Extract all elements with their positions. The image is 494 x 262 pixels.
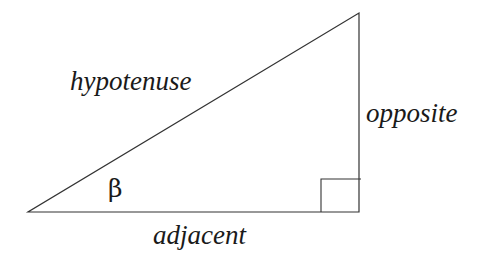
opposite-label: opposite — [366, 100, 458, 127]
angle-beta-label: β — [108, 176, 122, 201]
right-triangle — [28, 13, 359, 212]
right-angle-marker — [321, 179, 361, 212]
hypotenuse-label: hypotenuse — [70, 68, 191, 95]
triangle-figure — [0, 0, 494, 262]
adjacent-label: adjacent — [153, 222, 246, 249]
